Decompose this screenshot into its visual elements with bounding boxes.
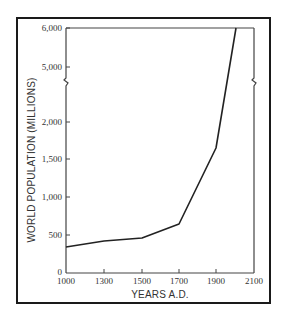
population-chart: 6,000 5,000 2,000 1,500 1,000 500 0 1000… — [0, 0, 286, 322]
y-axis-title: WORLD POPULATION (MILLIONS) — [26, 77, 37, 242]
x-tick-labels: 1000 1300 1500 1700 1900 2100 — [57, 276, 264, 286]
y-tick-1500: 1,500 — [42, 154, 63, 164]
x-tick-1500: 1500 — [133, 276, 152, 286]
y-tick-500: 500 — [49, 230, 63, 240]
x-axis-title: YEARS A.D. — [131, 289, 189, 300]
x-tick-1700: 1700 — [170, 276, 189, 286]
y-tick-2000: 2,000 — [42, 117, 63, 127]
x-tick-1300: 1300 — [95, 276, 114, 286]
x-tick-2100: 2100 — [245, 276, 264, 286]
x-tick-1900: 1900 — [207, 276, 226, 286]
y-tick-6000: 6,000 — [42, 23, 63, 33]
y-tick-5000: 5,000 — [42, 62, 63, 72]
y-tick-labels: 6,000 5,000 2,000 1,500 1,000 500 0 — [42, 23, 63, 277]
x-tick-1000: 1000 — [57, 276, 76, 286]
plot-axes — [64, 28, 256, 273]
population-line — [66, 28, 236, 247]
y-tick-1000: 1,000 — [42, 192, 63, 202]
